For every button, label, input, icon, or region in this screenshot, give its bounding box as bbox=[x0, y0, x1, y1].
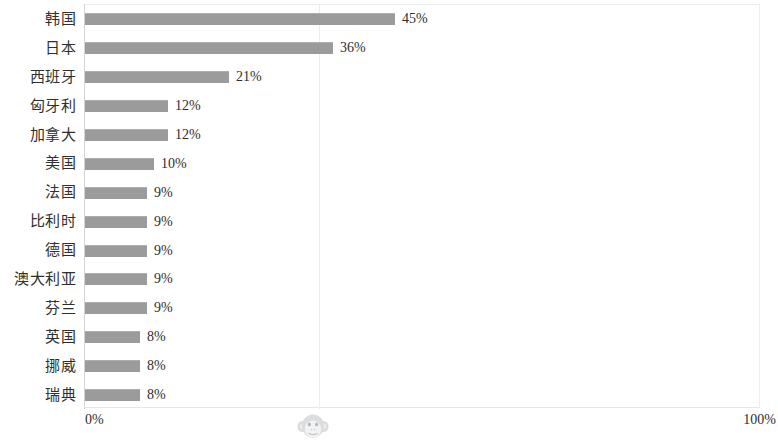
bar-value-label: 9% bbox=[154, 272, 173, 286]
bar bbox=[85, 158, 154, 170]
bar bbox=[85, 187, 147, 199]
bar-value-label: 9% bbox=[154, 215, 173, 229]
bar-value-label: 9% bbox=[154, 186, 173, 200]
category-label: 澳大利亚 bbox=[0, 271, 76, 288]
axis-tick-max: 100% bbox=[743, 412, 776, 428]
bar-value-label: 45% bbox=[402, 12, 428, 26]
category-label: 英国 bbox=[0, 329, 76, 346]
bar-row: 美国10% bbox=[0, 149, 778, 178]
bar bbox=[85, 129, 168, 141]
bar-value-label: 36% bbox=[340, 41, 366, 55]
category-label: 美国 bbox=[0, 155, 76, 172]
bar-row: 瑞典8% bbox=[0, 381, 778, 410]
bar-value-label: 21% bbox=[236, 70, 262, 84]
category-label: 瑞典 bbox=[0, 387, 76, 404]
bar-row: 芬兰9% bbox=[0, 294, 778, 323]
bar-row: 匈牙利12% bbox=[0, 92, 778, 121]
bar bbox=[85, 13, 395, 25]
bar-container: 9% bbox=[85, 294, 761, 323]
category-label: 加拿大 bbox=[0, 127, 76, 144]
bar-container: 12% bbox=[85, 121, 761, 150]
bar bbox=[85, 360, 140, 372]
category-label: 法国 bbox=[0, 184, 76, 201]
category-label: 芬兰 bbox=[0, 300, 76, 317]
bar bbox=[85, 216, 147, 228]
bar-value-label: 8% bbox=[147, 388, 166, 402]
bar bbox=[85, 389, 140, 401]
bar-value-label: 10% bbox=[161, 157, 187, 171]
category-label: 匈牙利 bbox=[0, 98, 76, 115]
category-label: 德国 bbox=[0, 242, 76, 259]
bar-row: 比利时9% bbox=[0, 207, 778, 236]
bar-row: 澳大利亚9% bbox=[0, 265, 778, 294]
bar-row: 英国8% bbox=[0, 323, 778, 352]
category-label: 西班牙 bbox=[0, 69, 76, 86]
bar-row: 德国9% bbox=[0, 236, 778, 265]
category-label: 日本 bbox=[0, 40, 76, 57]
monkey-face-watermark bbox=[296, 414, 330, 440]
bar-container: 45% bbox=[85, 5, 761, 34]
bar-row: 日本36% bbox=[0, 34, 778, 63]
bar-container: 8% bbox=[85, 381, 761, 410]
bar-row: 韩国45% bbox=[0, 5, 778, 34]
bar-row: 挪威8% bbox=[0, 352, 778, 381]
bar bbox=[85, 71, 229, 83]
category-label: 挪威 bbox=[0, 358, 76, 375]
bar bbox=[85, 100, 168, 112]
bar bbox=[85, 302, 147, 314]
bar bbox=[85, 245, 147, 257]
category-label: 比利时 bbox=[0, 213, 76, 230]
bar bbox=[85, 42, 333, 54]
value-axis-labels: 0% 100% bbox=[0, 412, 778, 436]
bar-value-label: 8% bbox=[147, 359, 166, 373]
bar-container: 21% bbox=[85, 63, 761, 92]
bar-container: 9% bbox=[85, 236, 761, 265]
bar-container: 8% bbox=[85, 323, 761, 352]
category-label: 韩国 bbox=[0, 11, 76, 28]
bar-row: 西班牙21% bbox=[0, 63, 778, 92]
bar bbox=[85, 273, 147, 285]
bar-value-label: 9% bbox=[154, 301, 173, 315]
bar-value-label: 12% bbox=[175, 99, 201, 113]
bar-container: 12% bbox=[85, 92, 761, 121]
bar-container: 10% bbox=[85, 149, 761, 178]
bar-chart: 韩国45%日本36%西班牙21%匈牙利12%加拿大12%美国10%法国9%比利时… bbox=[0, 0, 778, 442]
bar-value-label: 9% bbox=[154, 244, 173, 258]
bar-container: 8% bbox=[85, 352, 761, 381]
bar-value-label: 12% bbox=[175, 128, 201, 142]
bar-value-label: 8% bbox=[147, 330, 166, 344]
bar-container: 9% bbox=[85, 207, 761, 236]
bar-container: 9% bbox=[85, 265, 761, 294]
axis-tick-min: 0% bbox=[85, 412, 104, 428]
bar bbox=[85, 331, 140, 343]
bar-rows: 韩国45%日本36%西班牙21%匈牙利12%加拿大12%美国10%法国9%比利时… bbox=[0, 5, 778, 409]
bar-container: 36% bbox=[85, 34, 761, 63]
bar-row: 加拿大12% bbox=[0, 121, 778, 150]
bar-row: 法国9% bbox=[0, 178, 778, 207]
bar-container: 9% bbox=[85, 178, 761, 207]
